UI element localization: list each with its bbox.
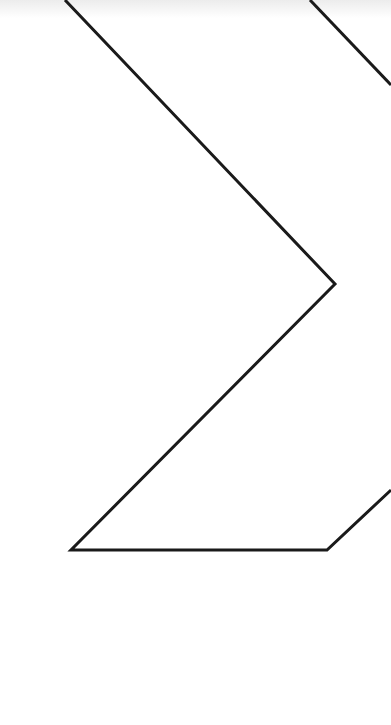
zigzag-drawing	[0, 0, 391, 725]
diagram-canvas	[0, 0, 391, 725]
main-zigzag-line	[65, 0, 391, 550]
upper-right-line	[310, 0, 391, 85]
